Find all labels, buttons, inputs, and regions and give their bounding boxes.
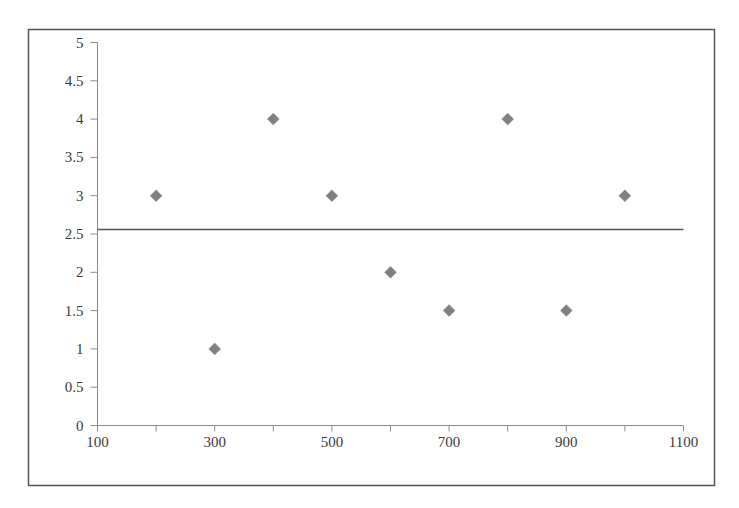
y-tick-label: 3.5 [65, 149, 84, 165]
y-tick-label: 2 [76, 264, 84, 280]
x-tick-label: 300 [203, 434, 226, 450]
y-tick-label: 4 [76, 111, 84, 127]
x-tick-label: 500 [321, 434, 344, 450]
y-tick-label: 0.5 [65, 379, 84, 395]
x-tick-label: 900 [555, 434, 578, 450]
y-tick-label: 1 [76, 341, 84, 357]
y-tick-label: 0 [76, 418, 84, 434]
x-tick-label: 700 [438, 434, 461, 450]
scatter-chart: 00.511.522.533.544.55 100300500700900110… [0, 0, 739, 508]
x-tick-label: 1100 [669, 434, 698, 450]
x-tick-label: 100 [86, 434, 109, 450]
y-tick-label: 5 [76, 35, 84, 51]
y-tick-label: 2.5 [65, 226, 84, 242]
y-tick-label: 4.5 [65, 73, 84, 89]
chart-border [29, 30, 715, 486]
y-tick-label: 3 [76, 188, 84, 204]
y-tick-label: 1.5 [65, 303, 84, 319]
